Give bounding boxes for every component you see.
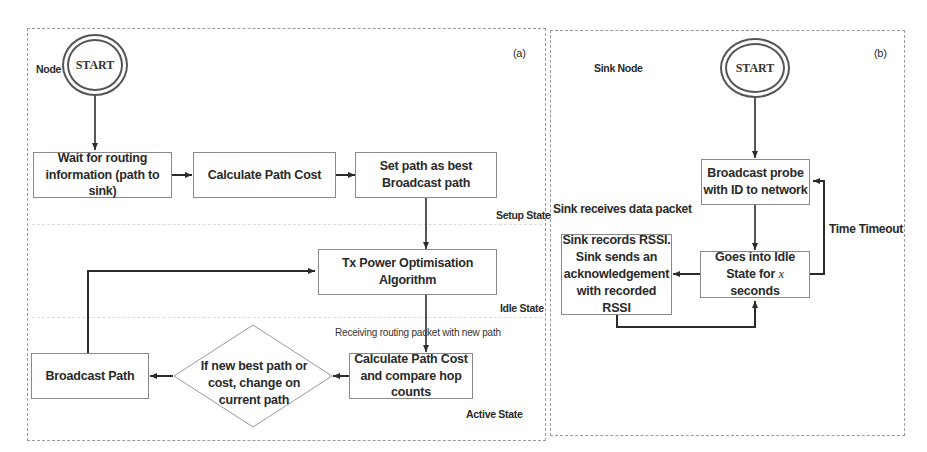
broadcast-probe-box: Broadcast probe with ID to network [701,159,810,205]
receiving-packet-label: Receiving routing packet with new path [335,327,501,338]
idle-box-variable: x [778,267,783,281]
start-node-a: START [62,34,128,96]
broadcast-path-text: Broadcast Path [46,368,135,385]
idle-box-line2-post: seconds [730,284,779,298]
wait-routing-box: Wait for routing information (path to si… [33,152,172,198]
start-node-a-inner: START [67,39,123,91]
active-state-label: Active State [466,408,523,420]
record-rssi-line2: Sink sends an [576,249,657,266]
idle-box-line1: Goes into Idle [715,249,795,266]
broadcast-path-box: Broadcast Path [31,353,149,399]
idle-state-label: Idle State [500,302,544,314]
panel-a-tag: (a) [513,47,526,59]
idle-state-box: Goes into Idle State for x seconds [700,251,810,298]
idle-box-line2: State for x seconds [701,266,809,300]
start-node-b-inner: START [725,43,785,93]
calc-compare-box: Calculate Path Cost and compare hop coun… [349,353,473,399]
record-rssi-line4: with recorded RSSI [562,283,671,317]
set-best-path-text: Set path as best Broadcast path [356,158,496,192]
set-best-path-box: Set path as best Broadcast path [355,152,497,198]
decision-text: If new best path or cost, change on curr… [190,358,318,409]
start-label-b: START [736,61,775,76]
record-rssi-line1: Sink records RSSI. [562,232,670,249]
setup-state-label: Setup State [496,209,550,221]
panel-b-tag: (b) [874,47,887,59]
tx-power-text: Tx Power Optimisation Algorithm [319,255,496,289]
time-timeout-label: Time Timeout [829,222,903,236]
sink-node-label: Sink Node [594,62,643,74]
broadcast-probe-text: Broadcast probe with ID to network [702,165,809,199]
start-node-b: START [720,38,790,98]
calc-compare-text: Calculate Path Cost and compare hop coun… [350,351,472,402]
record-rssi-line3: acknowledgement [564,266,669,283]
calc-path-cost-box: Calculate Path Cost [193,152,336,198]
idle-box-line2-pre: State for [726,267,778,281]
tx-power-box: Tx Power Optimisation Algorithm [318,249,497,295]
record-rssi-box: Sink records RSSI. Sink sends an acknowl… [561,234,672,315]
sink-receives-label: Sink receives data packet [553,202,692,216]
calc-path-cost-text: Calculate Path Cost [208,167,322,184]
node-label: Node [36,63,61,75]
start-label-a: START [76,58,115,73]
wait-routing-text: Wait for routing information (path to si… [34,150,171,201]
